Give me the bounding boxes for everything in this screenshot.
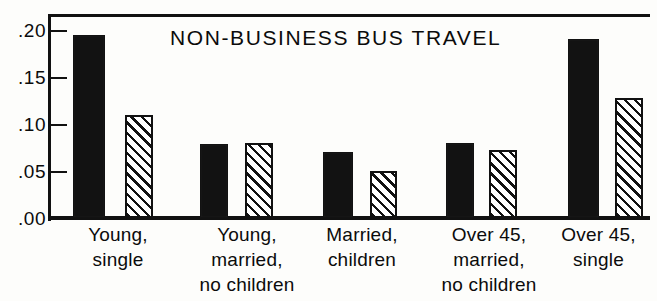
x-category-label-0: Young, single bbox=[48, 222, 188, 272]
x-label-line: single bbox=[540, 247, 657, 272]
x-label-line: children bbox=[297, 247, 427, 272]
bar-solid-0 bbox=[73, 35, 105, 218]
chart-figure: .20 .15 .10 .05 .00 NON-BUSINESS BUS TRA… bbox=[0, 0, 657, 301]
bar-hatched-1 bbox=[245, 143, 273, 218]
x-label-line: single bbox=[48, 247, 188, 272]
x-label-line: no children bbox=[415, 272, 563, 297]
x-category-label-4: Over 45, single bbox=[540, 222, 657, 272]
bar-hatched-4 bbox=[615, 98, 643, 218]
bar-hatched-3 bbox=[489, 150, 517, 218]
x-label-line: Young, bbox=[48, 222, 188, 247]
x-label-line: no children bbox=[172, 272, 322, 297]
bar-solid-4 bbox=[568, 39, 599, 218]
x-category-label-2: Married, children bbox=[297, 222, 427, 272]
x-label-line: Over 45, bbox=[540, 222, 657, 247]
bar-solid-1 bbox=[200, 144, 228, 218]
bar-solid-3 bbox=[446, 143, 474, 218]
bar-hatched-0 bbox=[125, 115, 153, 218]
x-axis-labels: Young, single Young, married, no childre… bbox=[0, 222, 657, 301]
bar-hatched-2 bbox=[370, 171, 397, 218]
bar-solid-2 bbox=[323, 152, 353, 218]
x-label-line: Married, bbox=[297, 222, 427, 247]
